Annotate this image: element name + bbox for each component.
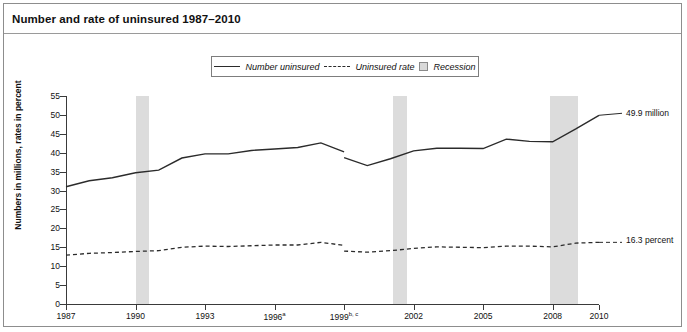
series-line-number-uninsured	[344, 115, 599, 165]
series-line-uninsured-rate	[344, 242, 599, 252]
chart-page: Number and rate of uninsured 1987–2010 N…	[0, 0, 687, 332]
series-lines	[0, 0, 687, 332]
series-line-uninsured-rate	[66, 242, 344, 255]
annotation-uninsured-rate: 16.3 percent	[626, 235, 673, 245]
annotation-number-uninsured: 49.9 million	[626, 108, 669, 118]
series-line-number-uninsured	[66, 143, 344, 187]
endpoint-leader-line	[599, 113, 622, 115]
